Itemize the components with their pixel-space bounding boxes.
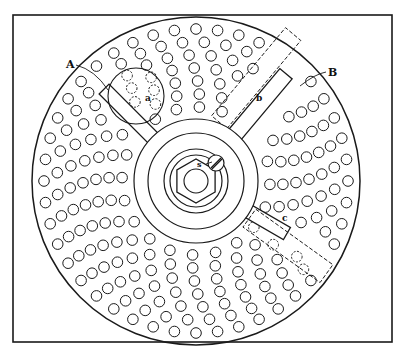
hole — [102, 283, 113, 294]
hole — [171, 104, 182, 115]
hole — [252, 255, 263, 266]
hole — [282, 134, 293, 145]
hole — [215, 286, 226, 297]
hole — [304, 174, 315, 185]
hole — [52, 167, 63, 178]
hole — [55, 146, 66, 157]
hole — [52, 113, 63, 124]
hole — [268, 135, 279, 146]
hole — [63, 231, 74, 242]
hole — [288, 200, 299, 211]
hole — [246, 303, 257, 314]
hole — [78, 178, 89, 189]
hole — [317, 169, 328, 180]
hole — [248, 63, 259, 74]
hole — [302, 196, 313, 207]
perforated-disc-diagram: A B a b c s — [0, 0, 403, 352]
hole — [91, 61, 102, 72]
hole — [74, 251, 85, 262]
hole — [119, 195, 130, 206]
label-B: B — [328, 66, 337, 79]
hole — [221, 40, 232, 51]
hole — [313, 147, 324, 158]
hole — [117, 172, 128, 183]
hole — [114, 216, 125, 227]
hole — [165, 259, 176, 270]
hole — [171, 287, 182, 298]
hole — [63, 258, 74, 269]
hole — [75, 225, 86, 236]
hole — [148, 322, 159, 333]
hole — [296, 107, 307, 118]
hole — [240, 292, 251, 303]
hole — [104, 172, 115, 183]
hole — [318, 120, 329, 131]
hole — [140, 305, 151, 316]
hole — [65, 183, 76, 194]
hole — [162, 53, 173, 64]
hole — [126, 83, 137, 94]
hole — [294, 131, 305, 142]
hole — [127, 235, 138, 246]
hole — [112, 237, 123, 248]
hole — [167, 273, 178, 284]
label-b: b — [256, 93, 262, 103]
hole — [134, 288, 145, 299]
hole — [341, 154, 352, 165]
hole — [210, 247, 221, 258]
hole — [169, 326, 180, 337]
hole — [306, 275, 317, 286]
hole — [146, 72, 157, 83]
hole — [343, 176, 354, 187]
hole — [290, 291, 301, 302]
hole — [329, 239, 340, 250]
hole — [121, 150, 132, 161]
hole — [194, 102, 205, 113]
hole — [108, 150, 119, 161]
hole — [217, 106, 228, 117]
hole — [127, 253, 138, 264]
hole — [284, 111, 295, 122]
hole — [278, 179, 289, 190]
hole — [219, 298, 230, 309]
hole — [227, 55, 238, 66]
hole — [255, 269, 266, 280]
hole — [199, 37, 210, 48]
hole — [177, 37, 188, 48]
hole — [45, 219, 56, 230]
hole — [184, 50, 195, 61]
hole — [193, 289, 204, 300]
hole — [45, 133, 56, 144]
hole — [274, 201, 285, 212]
hole — [266, 293, 277, 304]
hole — [40, 154, 51, 165]
hole — [210, 261, 221, 272]
hole — [109, 304, 120, 315]
hole — [301, 152, 312, 163]
hole — [129, 216, 140, 227]
hole — [83, 87, 94, 98]
hole — [273, 304, 284, 315]
hole — [329, 162, 340, 173]
hole — [70, 139, 81, 150]
hole — [91, 174, 102, 185]
hole — [85, 245, 96, 256]
hole — [76, 76, 87, 87]
hole — [56, 211, 67, 222]
hole — [117, 129, 128, 140]
label-c: c — [282, 213, 288, 223]
hole — [215, 79, 226, 90]
hole — [76, 275, 87, 286]
hole — [307, 126, 318, 137]
hole — [149, 281, 160, 292]
hole — [254, 37, 265, 48]
hole — [234, 322, 245, 333]
hole — [232, 71, 243, 82]
hole — [167, 65, 178, 76]
label-s: s — [197, 159, 202, 169]
hole — [96, 115, 107, 126]
hole — [216, 93, 227, 104]
hole — [283, 280, 294, 291]
label-A: A — [65, 58, 75, 71]
hole — [329, 184, 340, 195]
